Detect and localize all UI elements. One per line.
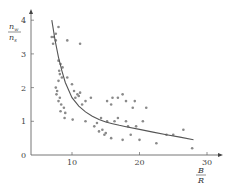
data-point xyxy=(81,103,84,106)
data-point xyxy=(110,137,113,140)
data-point xyxy=(55,86,58,89)
y-tick-label: 4 xyxy=(21,16,26,25)
data-point xyxy=(110,103,113,106)
data-point xyxy=(57,26,60,29)
data-point xyxy=(64,112,67,115)
data-point xyxy=(121,139,124,142)
y-axis: 01234 xyxy=(21,9,34,160)
data-point xyxy=(79,42,82,45)
x-tick-label: 10 xyxy=(67,158,77,167)
data-point xyxy=(52,42,55,45)
data-points xyxy=(50,26,193,150)
data-point xyxy=(84,120,87,123)
data-point xyxy=(66,76,69,79)
data-point xyxy=(59,73,62,76)
data-point xyxy=(66,39,69,42)
data-point xyxy=(100,117,103,120)
data-point xyxy=(125,100,128,103)
data-point xyxy=(63,107,66,110)
data-point xyxy=(74,96,77,99)
y-tick-label: 2 xyxy=(21,84,26,93)
data-point xyxy=(56,90,59,93)
y-label-numerator: nw xyxy=(9,22,19,32)
x-tick-label: 20 xyxy=(134,158,144,167)
data-point xyxy=(61,76,64,79)
y-tick-label: 3 xyxy=(21,50,26,59)
data-point xyxy=(182,128,185,131)
x-axis-label: B R xyxy=(196,166,206,185)
data-point xyxy=(77,95,80,98)
data-point xyxy=(145,107,148,110)
data-point xyxy=(57,80,60,83)
data-point xyxy=(104,132,107,135)
data-point xyxy=(93,125,96,128)
data-point xyxy=(131,107,134,110)
data-point xyxy=(191,147,194,150)
data-point xyxy=(98,130,101,133)
data-point xyxy=(155,142,158,145)
data-point xyxy=(138,139,141,142)
data-point xyxy=(117,96,120,99)
x-axis: 102030 xyxy=(31,152,223,167)
data-point xyxy=(58,69,61,72)
y-ticks: 01234 xyxy=(21,16,34,160)
fitted-curve xyxy=(52,20,194,140)
y-tick-label: 1 xyxy=(21,117,26,126)
data-point xyxy=(117,117,120,120)
data-point xyxy=(59,96,62,99)
y-tick-label: 0 xyxy=(21,151,26,160)
y-label-denominator: ns xyxy=(9,33,17,43)
x-ticks: 102030 xyxy=(67,152,212,167)
data-point xyxy=(63,117,66,120)
y-axis-label: nw ns xyxy=(8,22,21,43)
data-point xyxy=(125,120,128,123)
data-point xyxy=(135,125,138,128)
data-point xyxy=(71,118,74,121)
data-point xyxy=(57,100,60,103)
data-point xyxy=(79,91,82,94)
scatter-chart: 01234 102030 nw ns B R xyxy=(0,0,234,191)
data-point xyxy=(129,133,132,136)
x-label-denominator: R xyxy=(197,176,204,185)
data-point xyxy=(111,96,114,99)
data-point xyxy=(106,100,109,103)
data-point xyxy=(142,120,145,123)
data-point xyxy=(121,93,124,96)
data-point xyxy=(101,128,104,131)
x-label-numerator: B xyxy=(197,166,204,175)
data-point xyxy=(60,103,63,106)
data-point xyxy=(55,93,58,96)
data-point xyxy=(55,32,58,35)
data-point xyxy=(84,100,87,103)
data-point xyxy=(59,110,62,113)
data-point xyxy=(71,83,74,86)
data-point xyxy=(133,100,136,103)
data-point xyxy=(73,90,76,93)
y-axis-arrow-icon xyxy=(29,9,33,14)
data-point xyxy=(113,120,116,123)
x-axis-arrow-icon xyxy=(218,153,223,157)
data-point xyxy=(90,96,93,99)
data-point xyxy=(96,122,99,125)
